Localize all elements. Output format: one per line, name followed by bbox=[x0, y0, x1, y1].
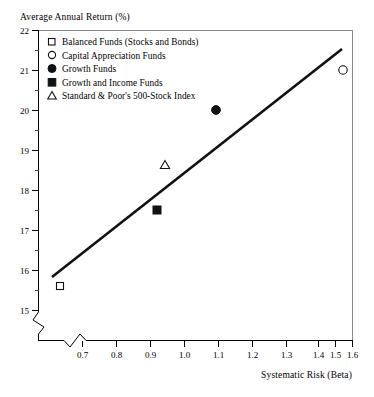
chart-canvas: Average Annual Return (%) 22 21 20 bbox=[0, 0, 374, 397]
legend-label: Capital Appreciation Funds bbox=[62, 51, 166, 61]
x-tick-label: 1.4 bbox=[313, 350, 325, 360]
y-tick-label: 21 bbox=[20, 66, 29, 76]
y-axis-title: Average Annual Return (%) bbox=[20, 12, 130, 23]
legend-marker-filled-square-icon bbox=[48, 79, 56, 87]
x-tick-label: 0.8 bbox=[111, 350, 123, 360]
y-tick-label: 15 bbox=[20, 306, 30, 316]
data-point-sp500-index bbox=[160, 161, 169, 169]
legend-label: Standard & Poor's 500-Stock Index bbox=[62, 91, 196, 101]
y-axis-minor-ticks bbox=[35, 51, 39, 291]
legend-marker-open-square-icon bbox=[49, 39, 56, 46]
data-point-capital-appreciation-funds bbox=[339, 66, 347, 74]
y-tick-label: 17 bbox=[20, 226, 30, 236]
legend-label: Growth and Income Funds bbox=[62, 78, 163, 88]
y-axis bbox=[33, 30, 44, 341]
x-tick-label: 0.9 bbox=[145, 350, 157, 360]
x-tick-label: 1.6 bbox=[347, 350, 359, 360]
y-tick-label: 20 bbox=[20, 106, 30, 116]
x-tick-label: 1.3 bbox=[281, 350, 293, 360]
x-axis-title: Systematic Risk (Beta) bbox=[261, 370, 352, 381]
data-point-balanced-funds bbox=[57, 283, 64, 290]
x-tick-label: 1.2 bbox=[247, 350, 258, 360]
y-tick-label: 16 bbox=[20, 266, 30, 276]
y-tick-label: 19 bbox=[20, 146, 30, 156]
legend: Balanced Funds (Stocks and Bonds) Capita… bbox=[48, 37, 199, 101]
legend-label: Balanced Funds (Stocks and Bonds) bbox=[62, 37, 198, 48]
x-axis bbox=[39, 334, 353, 347]
x-tick-label: 1.0 bbox=[179, 350, 191, 360]
legend-marker-filled-circle-icon bbox=[48, 65, 56, 73]
legend-marker-open-triangle-icon bbox=[48, 92, 57, 100]
y-tick-label: 18 bbox=[20, 186, 30, 196]
x-tick-label: 1.1 bbox=[213, 350, 224, 360]
x-tick-label: 1.5 bbox=[330, 350, 342, 360]
x-tick-label: 0.7 bbox=[77, 350, 89, 360]
legend-label: Growth Funds bbox=[62, 64, 116, 74]
data-point-growth-and-income-funds bbox=[153, 206, 161, 214]
scatter-chart: Average Annual Return (%) 22 21 20 bbox=[0, 0, 374, 397]
legend-marker-open-circle-icon bbox=[48, 51, 55, 58]
data-point-growth-funds bbox=[212, 106, 221, 115]
y-tick-label: 22 bbox=[20, 26, 29, 36]
x-axis-ticks: 0.7 0.8 0.9 1.0 1.1 1.2 1.3 1.4 1.5 1.6 bbox=[77, 341, 359, 361]
